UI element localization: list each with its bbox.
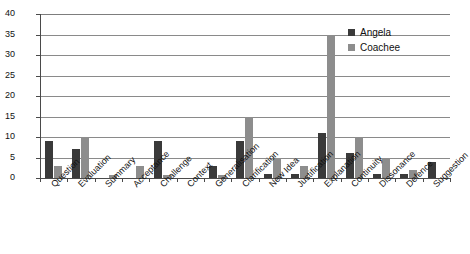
legend-item-angela: Angela	[348, 25, 448, 40]
y-tick-label-25: 25	[5, 71, 15, 80]
legend-swatch-icon	[348, 44, 355, 51]
y-axis-line	[40, 14, 41, 179]
y-tick-label-35: 35	[5, 30, 15, 39]
bar-group	[177, 14, 204, 178]
y-tick-label-15: 15	[5, 112, 15, 121]
bar-group	[286, 14, 313, 178]
y-tick-label-40: 40	[5, 9, 15, 18]
legend-swatch-icon	[348, 29, 355, 36]
bar-angela-question	[45, 141, 53, 178]
bar-group	[40, 14, 67, 178]
y-tick-label-10: 10	[5, 132, 15, 141]
legend-label: Angela	[360, 27, 391, 38]
y-tick-label-5: 5	[10, 153, 15, 162]
bar-group	[122, 14, 149, 178]
x-axis-labels: QuestionEvaluationSummaryAcceptanceChall…	[0, 182, 455, 254]
bar-group	[95, 14, 122, 178]
bar-group	[67, 14, 94, 178]
chart-legend: AngelaCoachee	[348, 25, 448, 55]
y-tick-label-0: 0	[10, 173, 15, 182]
bar-group	[204, 14, 231, 178]
y-tick-label-20: 20	[5, 91, 15, 100]
legend-label: Coachee	[360, 42, 400, 53]
legend-item-coachee: Coachee	[348, 40, 448, 55]
y-tick-label-30: 30	[5, 50, 15, 59]
